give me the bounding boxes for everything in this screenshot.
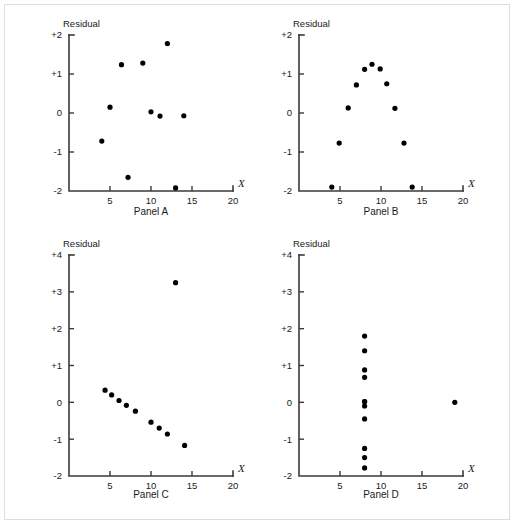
- panel-d-y-axis-title: Residual: [293, 238, 330, 249]
- data-point: [362, 348, 367, 353]
- data-point: [181, 113, 186, 118]
- panel-a-ytick-label: +2: [51, 29, 62, 40]
- panel-a-y-axis-title: Residual: [63, 18, 100, 29]
- data-point: [362, 446, 367, 451]
- panel-b-points: [329, 62, 415, 190]
- panel-d: Residual -2-10+1+2+3+4 5101520 X Panel D: [261, 233, 486, 501]
- data-point: [102, 388, 107, 393]
- data-point: [346, 105, 351, 110]
- panel-b-x-ticks: 5101520: [337, 186, 468, 206]
- data-point: [109, 392, 114, 397]
- data-point: [119, 62, 124, 67]
- data-point: [362, 465, 367, 470]
- panel-a-ytick-label: +1: [51, 68, 62, 79]
- data-point: [337, 140, 342, 145]
- data-point: [157, 426, 162, 431]
- panel-b-ytick-label: +1: [281, 68, 292, 79]
- data-point: [148, 420, 153, 425]
- data-point: [140, 60, 145, 65]
- panel-a-x-ticks: 5101520: [107, 186, 238, 206]
- panel-c-ytick-label: -1: [54, 434, 62, 445]
- panel-d-plot: Residual -2-10+1+2+3+4 5101520 X Panel D: [261, 233, 486, 501]
- data-point: [362, 455, 367, 460]
- data-point: [157, 114, 162, 119]
- data-point: [392, 106, 397, 111]
- panel-d-points: [362, 333, 457, 470]
- panel-b-plot: Residual -2-10+1+2 5101520 X Panel B: [261, 13, 486, 218]
- data-point: [384, 81, 389, 86]
- panel-b-xtick-label: 10: [376, 195, 387, 206]
- data-point: [165, 41, 170, 46]
- data-point: [369, 62, 374, 67]
- panel-c-y-ticks: -2-10+1+2+3+4: [51, 249, 74, 481]
- panel-b-ytick-label: 0: [287, 107, 292, 118]
- data-point: [182, 443, 187, 448]
- data-point: [133, 409, 138, 414]
- panel-b-y-axis-title: Residual: [293, 18, 330, 29]
- panel-c-caption: Panel C: [133, 489, 169, 500]
- data-point: [148, 109, 153, 114]
- panel-a-points: [99, 41, 186, 191]
- panel-d-axes: [299, 255, 463, 476]
- data-point: [362, 416, 367, 421]
- data-point: [125, 175, 130, 180]
- data-point: [173, 185, 178, 190]
- data-point: [401, 140, 406, 145]
- data-point: [99, 138, 104, 143]
- panel-a-x-axis-title: X: [237, 177, 246, 189]
- panel-a-caption: Panel A: [134, 206, 169, 217]
- data-point: [452, 400, 457, 405]
- panel-b-ytick-label: -2: [284, 185, 292, 196]
- figure-frame: Residual -2-10+1+2 5101520 X Panel A Res…: [4, 4, 510, 520]
- panel-c-ytick-label: +3: [51, 286, 62, 297]
- data-point: [362, 333, 367, 338]
- data-point: [378, 66, 383, 71]
- data-point: [124, 403, 129, 408]
- data-point: [107, 105, 112, 110]
- data-point: [165, 431, 170, 436]
- panel-b-xtick-label: 15: [417, 195, 428, 206]
- panel-b-y-ticks: -2-10+1+2: [281, 29, 304, 196]
- panel-c-ytick-label: +2: [51, 323, 62, 334]
- panel-b-axes: [299, 35, 463, 191]
- panel-d-ytick-label: +1: [281, 360, 292, 371]
- panel-d-ytick-label: -1: [284, 434, 292, 445]
- panel-b-caption: Panel B: [363, 206, 398, 217]
- panel-a-xtick-label: 20: [228, 195, 239, 206]
- panel-d-ytick-label: 0: [287, 397, 292, 408]
- panel-b-ytick-label: -1: [284, 146, 292, 157]
- panel-b-x-axis-title: X: [467, 177, 476, 189]
- panel-a: Residual -2-10+1+2 5101520 X Panel A: [31, 13, 256, 218]
- panel-a-xtick-label: 5: [107, 195, 112, 206]
- panel-a-y-ticks: -2-10+1+2: [51, 29, 74, 196]
- panel-a-xtick-label: 15: [187, 195, 198, 206]
- panel-d-ytick-label: +4: [281, 249, 292, 260]
- panel-c-axes: [69, 255, 233, 476]
- panel-d-y-ticks: -2-10+1+2+3+4: [281, 249, 304, 481]
- panel-c: Residual -2-10+1+2+3+4 5101520 X Panel C: [31, 233, 256, 501]
- panel-a-plot: Residual -2-10+1+2 5101520 X Panel A: [31, 13, 256, 218]
- data-point: [354, 82, 359, 87]
- panel-c-plot: Residual -2-10+1+2+3+4 5101520 X Panel C: [31, 233, 256, 501]
- panel-b-xtick-label: 5: [337, 195, 342, 206]
- panel-c-xtick-label: 5: [107, 480, 112, 491]
- panel-c-ytick-label: +1: [51, 360, 62, 371]
- panel-a-ytick-label: -1: [54, 146, 62, 157]
- panel-d-xtick-label: 5: [337, 480, 342, 491]
- panel-c-xtick-label: 15: [187, 480, 198, 491]
- panel-b: Residual -2-10+1+2 5101520 X Panel B: [261, 13, 486, 218]
- panel-c-ytick-label: +4: [51, 249, 62, 260]
- panel-c-x-ticks: 5101520: [107, 471, 238, 491]
- panel-d-caption: Panel D: [363, 489, 399, 500]
- data-point: [362, 67, 367, 72]
- panel-d-ytick-label: +3: [281, 286, 292, 297]
- data-point: [410, 185, 415, 190]
- panel-c-y-axis-title: Residual: [63, 238, 100, 249]
- panel-d-x-ticks: 5101520: [337, 471, 468, 491]
- data-point: [362, 367, 367, 372]
- data-point: [362, 399, 367, 404]
- panel-c-points: [102, 280, 187, 448]
- panel-d-ytick-label: -2: [284, 470, 292, 481]
- panel-c-xtick-label: 20: [228, 480, 239, 491]
- panel-b-xtick-label: 20: [458, 195, 469, 206]
